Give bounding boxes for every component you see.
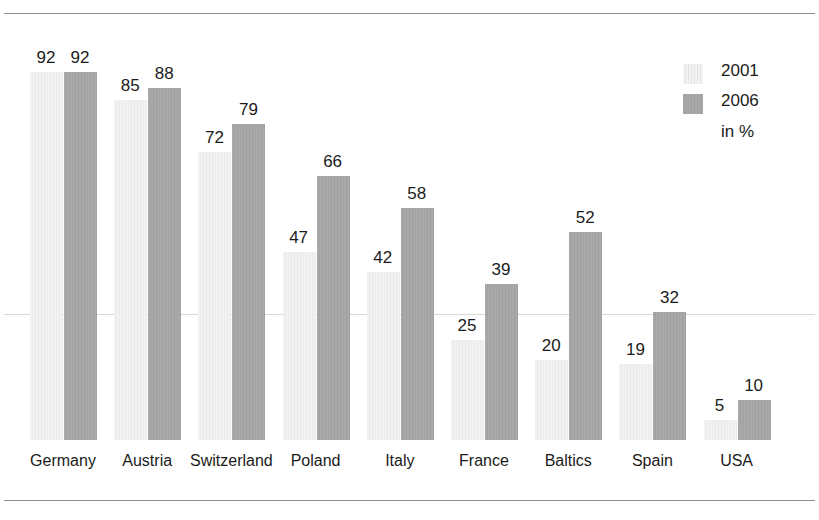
value-label-2006-france: 39 (484, 260, 518, 280)
bar-2006-baltics (569, 232, 602, 440)
bar-chart-figure: 92928588727947664258253920521932510 2001… (0, 0, 819, 520)
top-rule (4, 13, 815, 14)
bar-2001-poland (283, 252, 316, 440)
value-label-2006-poland: 66 (316, 152, 350, 172)
value-label-2001-usa: 5 (703, 396, 737, 416)
legend-unit-label: in % (721, 122, 754, 142)
bar-2001-usa (704, 420, 737, 440)
bar-2001-baltics (535, 360, 568, 440)
bar-2001-switzerland (198, 152, 231, 440)
bar-2006-spain (653, 312, 686, 440)
bar-2006-switzerland (232, 124, 265, 440)
value-label-2006-austria: 88 (147, 64, 181, 84)
value-label-2006-switzerland: 79 (231, 100, 265, 120)
bar-2006-italy (401, 208, 434, 440)
bar-2001-italy (367, 272, 400, 440)
chart-legend: 2001 2006 in % (683, 60, 813, 120)
bar-2006-germany (64, 72, 97, 440)
bar-2001-germany (30, 72, 63, 440)
legend-entry-2001: 2001 (683, 60, 813, 90)
bar-group: 8588 (114, 22, 184, 440)
value-label-2001-baltics: 20 (534, 336, 568, 356)
legend-label-2006: 2006 (721, 91, 759, 111)
value-label-2001-switzerland: 72 (197, 128, 231, 148)
bar-2006-usa (738, 400, 771, 440)
bar-group: 4258 (367, 22, 437, 440)
bar-2001-france (451, 340, 484, 440)
bar-2006-france (485, 284, 518, 440)
value-label-2001-spain: 19 (618, 340, 652, 360)
bar-group: 7279 (198, 22, 268, 440)
bar-2006-poland (317, 176, 350, 440)
category-label-usa: USA (672, 452, 802, 470)
value-label-2001-italy: 42 (366, 248, 400, 268)
bar-group: 2539 (451, 22, 521, 440)
legend-swatch-2001 (683, 64, 703, 84)
value-label-2006-baltics: 52 (568, 208, 602, 228)
bar-group: 4766 (283, 22, 353, 440)
bar-group: 1932 (619, 22, 689, 440)
bar-group: 2052 (535, 22, 605, 440)
legend-label-2001: 2001 (721, 61, 759, 81)
value-label-2001-france: 25 (450, 316, 484, 336)
value-label-2001-poland: 47 (282, 228, 316, 248)
value-label-2001-germany: 92 (29, 48, 63, 68)
bar-2001-spain (619, 364, 652, 440)
value-label-2006-usa: 10 (737, 376, 771, 396)
legend-swatch-2006 (683, 94, 703, 114)
value-label-2006-germany: 92 (63, 48, 97, 68)
value-label-2001-austria: 85 (113, 76, 147, 96)
bar-2006-austria (148, 88, 181, 440)
bar-group: 9292 (30, 22, 100, 440)
value-label-2006-italy: 58 (400, 184, 434, 204)
legend-entry-2006: 2006 (683, 90, 813, 120)
bottom-rule (4, 500, 815, 501)
bar-2001-austria (114, 100, 147, 440)
value-label-2006-spain: 32 (652, 288, 686, 308)
